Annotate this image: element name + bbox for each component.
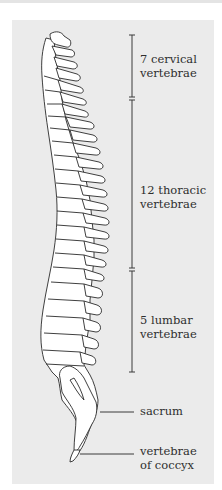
vertebra [84, 301, 102, 315]
vertebra [66, 117, 94, 129]
label-lumbar-line2: vertebrae [140, 327, 197, 341]
ruler [129, 35, 135, 372]
vertebra [62, 104, 88, 117]
vertebra [73, 143, 100, 155]
vertebra [84, 255, 106, 267]
vertebra [58, 80, 83, 93]
vertebra [82, 199, 108, 211]
label-cervical: 7 cervical vertebrae [140, 52, 197, 80]
label-coccyx: vertebrae of coccyx [140, 444, 197, 472]
vertebra [84, 284, 103, 298]
vertebra [82, 335, 99, 349]
label-coccyx-line2: of coccyx [140, 458, 197, 472]
label-cervical-line1: 7 cervical [140, 52, 197, 66]
vertebra [78, 171, 105, 183]
vertebra [83, 318, 101, 332]
label-lumbar-line1: 5 lumbar [140, 313, 197, 327]
vertebra [84, 227, 109, 239]
label-thoracic-line1: 12 thoracic [140, 183, 206, 197]
vertebra [83, 213, 109, 225]
vertebra [80, 352, 96, 365]
label-sacrum: sacrum [140, 404, 183, 418]
vertebra [80, 185, 107, 197]
label-thoracic-line2: vertebrae [140, 197, 206, 211]
vertebral-column [41, 32, 109, 462]
vertebra [60, 92, 86, 105]
coccyx-shape [70, 450, 80, 462]
vertebra [84, 241, 108, 253]
label-sacrum-line1: sacrum [140, 404, 183, 418]
vertebra [76, 157, 103, 169]
label-thoracic: 12 thoracic vertebrae [140, 183, 206, 211]
label-lumbar: 5 lumbar vertebrae [140, 313, 197, 341]
label-coccyx-line1: vertebrae [140, 444, 197, 458]
vertebra [70, 130, 97, 142]
label-cervical-line2: vertebrae [140, 66, 197, 80]
vertebra [84, 269, 104, 281]
